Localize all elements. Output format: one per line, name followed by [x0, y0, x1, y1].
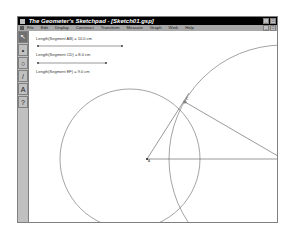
- arrow-icon: ↖: [20, 33, 26, 41]
- selection-arrow-tool[interactable]: ↖: [18, 31, 28, 43]
- circle-icon: ○: [21, 60, 25, 67]
- window-title: The Geometer's Sketchpad - [Sketch01.gsp…: [29, 18, 154, 24]
- hand-text-icon: A: [21, 86, 26, 93]
- object-info-tool[interactable]: ?: [18, 96, 28, 108]
- text-tool[interactable]: A: [18, 83, 28, 95]
- title-bar[interactable]: The Geometer's Sketchpad - [Sketch01.gsp…: [18, 17, 277, 25]
- circle-b[interactable]: [169, 45, 277, 222]
- sketchpad-window: The Geometer's Sketchpad - [Sketch01.gsp…: [17, 16, 278, 223]
- minimize-button[interactable]: _: [263, 18, 269, 24]
- point-icon: •: [22, 47, 24, 54]
- label-a: A: [148, 159, 150, 163]
- straightedge-tool[interactable]: /: [18, 70, 28, 82]
- sketch-canvas[interactable]: Length(Segment AB) = 10.0 cm Length(Segm…: [29, 31, 277, 222]
- question-icon: ?: [21, 99, 25, 106]
- segment-cb[interactable]: [185, 102, 277, 159]
- line-icon: /: [22, 73, 24, 80]
- label-c: C: [186, 97, 189, 101]
- geometry-drawing: A B C: [29, 31, 277, 222]
- maximize-button[interactable]: □: [270, 18, 276, 24]
- segment-ac[interactable]: [147, 93, 189, 159]
- toolbox: ↖ • ○ / A ?: [18, 31, 29, 222]
- compass-tool[interactable]: ○: [18, 57, 28, 69]
- app-icon: [20, 19, 25, 24]
- document-icon[interactable]: [20, 26, 24, 30]
- point-tool[interactable]: •: [18, 44, 28, 56]
